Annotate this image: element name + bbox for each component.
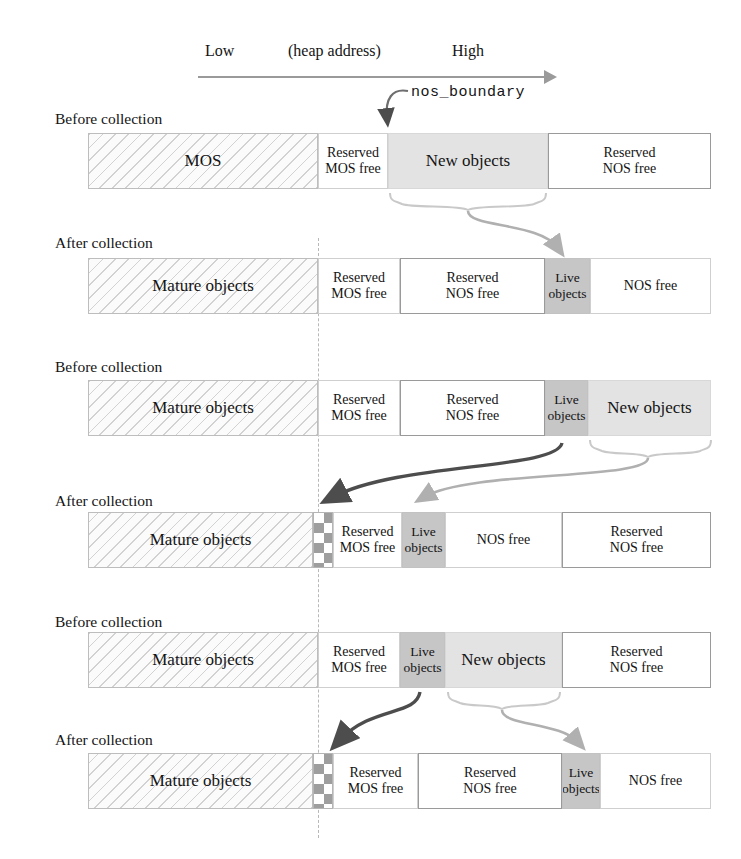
segment-label-reserved-mos-free: ReservedMOS free: [325, 145, 381, 177]
row-caption-row-5: Before collection: [55, 613, 162, 631]
heap-bar-row-3: Mature objectsReservedMOS freeReservedNO…: [0, 380, 741, 436]
segment-nos-free: NOS free: [600, 753, 711, 809]
segment-reserved-mos-free: ReservedMOS free: [318, 380, 400, 436]
arrow-row5-to-row6-live-objects: [502, 710, 578, 742]
segment-label-reserved-mos-free: ReservedMOS free: [331, 392, 387, 424]
segment-mos: MOS: [88, 133, 318, 189]
heap-layout-diagram: Low (heap address) High nos_boundary Bef…: [0, 0, 741, 859]
segment-label-live-objects: Liveobjects: [562, 765, 600, 796]
axis-label-low: Low: [205, 42, 234, 60]
row-caption-row-1: Before collection: [55, 110, 162, 128]
segment-label-reserved-nos-free: ReservedNOS free: [610, 524, 663, 556]
row-caption-row-6: After collection: [55, 731, 153, 749]
segment-reserved-nos-free: ReservedNOS free: [548, 133, 711, 189]
segment-live-objects: Liveobjects: [545, 258, 590, 314]
brace-row3-new-objects: [590, 440, 711, 457]
segment-reserved-mos-free: ReservedMOS free: [318, 632, 400, 688]
segment-reserved-nos-free: ReservedNOS free: [562, 512, 711, 568]
heap-bar-row-4: Mature objectsReservedMOS freeLiveobject…: [0, 512, 741, 568]
heap-bar-row-2: Mature objectsReservedMOS freeReservedNO…: [0, 258, 741, 314]
segment-compacted-gap: [313, 512, 333, 568]
segment-compacted-gap: [313, 753, 333, 809]
row-caption-row-3: Before collection: [55, 358, 162, 376]
segment-label-live-objects: Liveobjects: [548, 270, 586, 301]
segment-label-live-objects: Liveobjects: [403, 644, 441, 675]
nos-boundary-pointer-arrow: [387, 91, 408, 118]
segment-label-mature-objects: Mature objects: [150, 530, 252, 550]
arrow-row5-live-to-row6-mos: [340, 692, 420, 740]
heap-bar-row-5: Mature objectsReservedMOS freeLiveobject…: [0, 632, 741, 688]
segment-label-mos: MOS: [185, 151, 222, 171]
segment-label-mature-objects: Mature objects: [150, 771, 252, 791]
segment-reserved-mos-free: ReservedMOS free: [333, 512, 402, 568]
segment-label-reserved-nos-free: ReservedNOS free: [610, 644, 663, 676]
segment-reserved-mos-free: ReservedMOS free: [333, 753, 418, 809]
axis-label-heap-address: (heap address): [288, 42, 381, 60]
heap-bar-row-1: MOSReservedMOS freeNew objectsReservedNO…: [0, 133, 741, 189]
segment-reserved-mos-free: ReservedMOS free: [318, 133, 388, 189]
segment-label-mature-objects: Mature objects: [152, 650, 254, 670]
segment-reserved-mos-free: ReservedMOS free: [318, 258, 400, 314]
segment-label-reserved-nos-free: ReservedNOS free: [446, 392, 499, 424]
segment-label-new-objects: New objects: [461, 650, 546, 670]
row-caption-row-4: After collection: [55, 492, 153, 510]
segment-nos-free: NOS free: [445, 512, 562, 568]
segment-live-objects: Liveobjects: [402, 512, 445, 568]
segment-live-objects: Liveobjects: [400, 632, 445, 688]
segment-label-reserved-nos-free: ReservedNOS free: [446, 270, 499, 302]
segment-label-nos-free: NOS free: [629, 773, 682, 789]
segment-live-objects: Liveobjects: [545, 380, 588, 436]
nos-boundary-label: nos_boundary: [411, 84, 525, 101]
brace-row5-new-objects: [448, 692, 560, 709]
segment-label-live-objects: Liveobjects: [404, 524, 442, 555]
segment-label-mature-objects: Mature objects: [152, 398, 254, 418]
segment-mature-objects: Mature objects: [88, 753, 313, 809]
arrow-row3-to-row4-live-objects: [424, 458, 648, 497]
segment-nos-free: NOS free: [590, 258, 711, 314]
arrow-row3-live-to-row4-mos: [333, 443, 562, 497]
segment-reserved-nos-free: ReservedNOS free: [400, 380, 545, 436]
heap-address-axis-arrowhead: [544, 70, 557, 84]
axis-label-high: High: [452, 42, 484, 60]
segment-mature-objects: Mature objects: [88, 632, 318, 688]
segment-label-new-objects: New objects: [607, 398, 692, 418]
segment-live-objects: Liveobjects: [562, 753, 600, 809]
segment-label-nos-free: NOS free: [624, 278, 677, 294]
segment-label-live-objects: Liveobjects: [547, 392, 585, 423]
segment-label-reserved-mos-free: ReservedMOS free: [340, 524, 396, 556]
segment-reserved-nos-free: ReservedNOS free: [400, 258, 545, 314]
heap-bar-row-6: Mature objectsReservedMOS freeReservedNO…: [0, 753, 741, 809]
segment-mature-objects: Mature objects: [88, 258, 318, 314]
segment-reserved-nos-free: ReservedNOS free: [418, 753, 562, 809]
segment-label-reserved-mos-free: ReservedMOS free: [348, 765, 404, 797]
segment-new-objects: New objects: [388, 133, 548, 189]
segment-label-nos-free: NOS free: [477, 532, 530, 548]
brace-row1-new-objects: [390, 193, 546, 210]
segment-label-mature-objects: Mature objects: [152, 276, 254, 296]
segment-label-new-objects: New objects: [426, 151, 511, 171]
segment-label-reserved-mos-free: ReservedMOS free: [331, 644, 387, 676]
segment-mature-objects: Mature objects: [88, 380, 318, 436]
segment-mature-objects: Mature objects: [88, 512, 313, 568]
segment-label-reserved-nos-free: ReservedNOS free: [463, 765, 516, 797]
row-caption-row-2: After collection: [55, 234, 153, 252]
heap-address-axis-line: [198, 76, 546, 78]
segment-reserved-nos-free: ReservedNOS free: [562, 632, 711, 688]
segment-label-reserved-nos-free: ReservedNOS free: [603, 145, 656, 177]
segment-label-reserved-mos-free: ReservedMOS free: [331, 270, 387, 302]
segment-new-objects: New objects: [588, 380, 711, 436]
segment-new-objects: New objects: [445, 632, 562, 688]
arrow-row1-to-row2-live-objects: [468, 211, 558, 248]
